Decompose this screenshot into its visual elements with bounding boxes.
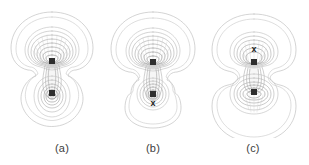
critical-point-marker-b: x xyxy=(150,98,155,108)
panel-label-b: (b) xyxy=(123,141,183,155)
critical-point-marker-c: x xyxy=(251,44,256,54)
contour-plot-c: x xyxy=(200,0,309,138)
contour-plot-a xyxy=(0,0,104,138)
contour-plot-b: x xyxy=(101,0,205,138)
nucleus-marker-lower-c xyxy=(251,89,257,95)
panel-label-a: (a) xyxy=(32,141,92,155)
contour-panel-c: x xyxy=(200,0,309,138)
nucleus-marker-upper-b xyxy=(150,59,156,65)
nucleus-marker-upper-c xyxy=(251,59,257,65)
contour-panel-b: x xyxy=(101,0,205,138)
nucleus-marker-upper-a xyxy=(49,58,55,64)
nucleus-marker-lower-b xyxy=(150,91,156,97)
contour-figure: (a) xyxy=(0,0,309,165)
panel-label-c: (c) xyxy=(223,141,283,155)
nucleus-marker-lower-a xyxy=(49,90,55,96)
contour-panel-a xyxy=(0,0,104,138)
